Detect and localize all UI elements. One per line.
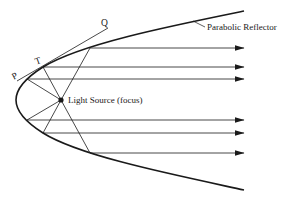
focus-point bbox=[58, 97, 63, 102]
incident-ray-3 bbox=[27, 79, 61, 100]
parabolic-reflector-diagram: Parabolic Reflector Light Source (focus)… bbox=[0, 0, 294, 198]
point-q-label: Q bbox=[101, 18, 108, 28]
reflector-label: Parabolic Reflector bbox=[207, 22, 277, 32]
incident-ray-2 bbox=[43, 67, 61, 100]
reflector-label-leader bbox=[193, 21, 205, 27]
tangent-line bbox=[17, 28, 108, 81]
incident-ray-6 bbox=[61, 100, 90, 153]
focus-label: Light Source (focus) bbox=[68, 95, 142, 105]
point-t-label: T bbox=[33, 55, 42, 66]
